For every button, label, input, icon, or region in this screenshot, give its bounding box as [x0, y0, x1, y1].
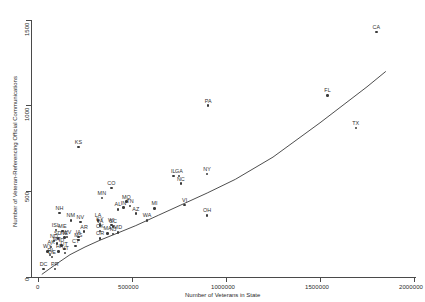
data-point-label: NH — [56, 205, 64, 211]
data-point-label: CO — [107, 180, 115, 186]
data-point — [326, 94, 328, 96]
data-point — [183, 204, 185, 206]
data-point-label: GA — [175, 168, 183, 174]
data-point-label: OR — [96, 230, 104, 236]
data-point — [99, 237, 101, 239]
data-point — [117, 208, 119, 210]
data-point-label: TX — [352, 120, 359, 126]
data-point-label: AZ — [132, 206, 139, 212]
data-point-label: WA — [143, 212, 152, 218]
data-point-label: NJ — [110, 226, 117, 232]
data-point — [122, 206, 124, 208]
data-point — [106, 232, 108, 234]
data-point-label: DE — [48, 249, 56, 255]
data-point — [110, 187, 112, 189]
data-point-label: PA — [205, 98, 212, 104]
data-point-label: DC — [40, 261, 48, 267]
data-point-label: MN — [98, 190, 107, 196]
data-point-label: AL — [114, 201, 121, 207]
data-point-label: AR — [80, 224, 88, 230]
data-point-label: NC — [177, 176, 185, 182]
data-point — [172, 175, 174, 177]
data-point — [117, 231, 119, 233]
data-point-label: FL — [324, 87, 331, 93]
data-point-label: KS — [75, 139, 82, 145]
data-point — [77, 146, 79, 148]
data-point-label: OH — [203, 207, 211, 213]
data-point — [58, 212, 60, 214]
data-point — [153, 207, 155, 209]
data-point-label: TN — [126, 198, 133, 204]
data-point — [135, 212, 137, 214]
data-point-label: IL — [171, 168, 176, 174]
data-point-label: PR — [51, 261, 59, 267]
data-point — [146, 219, 148, 221]
data-point — [375, 31, 377, 33]
data-point — [70, 219, 72, 221]
data-point-label: CT — [72, 238, 79, 244]
data-point-label: MI — [151, 200, 157, 206]
data-point-label: WV — [63, 229, 72, 235]
data-point-label: IN — [121, 200, 127, 206]
data-point-label: CA — [373, 24, 381, 30]
scatter-plot-figure: 1500 1000 500 0 Number of Veteran-Refere… — [0, 0, 425, 302]
data-point — [63, 248, 65, 250]
data-point-label: UT — [61, 241, 68, 247]
data-point-label: NM — [67, 212, 76, 218]
trend-line — [0, 0, 425, 302]
data-point-label: NV — [76, 214, 84, 220]
data-point — [83, 230, 85, 232]
data-point — [180, 182, 182, 184]
data-point — [355, 127, 357, 129]
data-point — [57, 250, 59, 252]
data-point-label: NY — [203, 166, 211, 172]
data-point-label: VI — [182, 197, 187, 203]
